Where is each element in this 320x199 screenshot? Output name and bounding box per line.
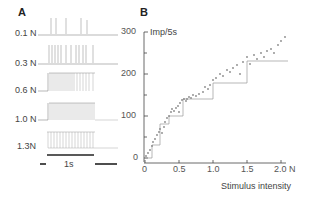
y-tick-0: 0	[133, 152, 138, 162]
y-tick-200: 200	[121, 68, 136, 78]
step-fit-line	[145, 61, 288, 158]
time-scale-bars	[40, 155, 117, 164]
spikes-0.6N	[49, 73, 95, 91]
spikes-0.3N	[49, 45, 93, 63]
x-tick-2.0: 2.0 N	[274, 164, 296, 174]
x-tick-1.0: 1.0	[207, 164, 220, 174]
panel-b-label: B	[140, 6, 148, 18]
spikes-1.3N	[47, 132, 95, 148]
x-tick-1.5: 1.5	[241, 164, 254, 174]
panel-b-axes	[144, 32, 286, 163]
x-axis-label: Stimulus intensity	[221, 181, 291, 191]
y-axis-label: Imp/5s	[150, 27, 177, 37]
time-scale-label: 1s	[64, 159, 74, 169]
spike-traces	[38, 35, 118, 148]
spikes-1.0N	[49, 103, 95, 120]
scatter-points	[145, 36, 286, 157]
x-tick-0: 0	[142, 164, 147, 174]
y-tick-100: 100	[121, 110, 136, 120]
x-tick-0.5: 0.5	[173, 164, 186, 174]
y-tick-300: 300	[121, 26, 136, 36]
spikes-0.1N	[51, 18, 87, 34]
